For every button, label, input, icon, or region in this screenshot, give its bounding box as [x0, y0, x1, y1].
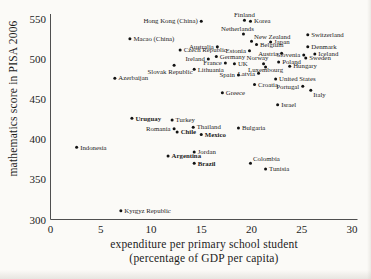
point-label-brazil: Brazil [198, 160, 216, 167]
point-slovenia [302, 53, 305, 56]
x-tick-label-5: 5 [98, 223, 104, 235]
point-tunisia [264, 167, 267, 170]
point-korea [249, 20, 252, 23]
point-czech-republic [179, 49, 182, 52]
point-label-sweden: Sweden [309, 54, 331, 61]
point-label-indonesia: Indonesia [80, 144, 106, 151]
y-tick-label-400: 400 [30, 133, 47, 145]
point-colombia [249, 162, 252, 165]
y-tick-label-500: 500 [30, 53, 47, 65]
point-portugal [301, 85, 304, 88]
x-axis-title-line2: (percentage of GDP per capita) [50, 252, 358, 264]
point-finland [243, 19, 246, 22]
x-tick-label-10: 10 [146, 223, 158, 235]
point-label-germany: Germany [220, 53, 246, 60]
point-label-slovenia: Slovenia [276, 51, 300, 58]
point-germany [215, 55, 218, 58]
point-label-korea: Korea [254, 17, 271, 24]
point-norway [262, 62, 265, 65]
x-tick-label-0: 0 [48, 223, 54, 235]
y-tick-label-300: 300 [30, 214, 47, 226]
point-label-colombia: Colombia [253, 155, 280, 162]
point-label-portugal: Portugal [276, 83, 299, 90]
point-label-denmark: Denmark [311, 43, 337, 50]
point-spain [237, 73, 240, 76]
x-tick-label-25: 25 [296, 223, 308, 235]
point-label-greece: Greece [226, 89, 245, 96]
point-label-latvia: Latvia [238, 70, 255, 77]
x-axis-title-line1: expenditure per primary school student [50, 238, 358, 250]
point-label-croatia: Croatia [258, 81, 278, 88]
point-israel [276, 103, 279, 106]
point-netherlands [242, 33, 245, 36]
point-chile [176, 130, 179, 133]
point-estonia [248, 49, 251, 52]
pisa-scatter-figure: 300350400450500550051015202530FinlandKor… [0, 0, 371, 279]
y-tick-label-350: 350 [30, 173, 47, 185]
point-label-bulgaria: Bulgaria [242, 124, 265, 131]
point-label-tunisia: Tunisia [269, 165, 289, 172]
point-hong-kong-china [200, 20, 203, 23]
point-poland [277, 61, 280, 64]
point-latvia [257, 72, 260, 75]
point-label-switzerland: Switzerland [311, 31, 344, 38]
point-romania [173, 127, 176, 130]
point-turkey [171, 118, 174, 121]
point-label-hungary: Hungary [293, 62, 317, 69]
y-tick-label-550: 550 [30, 13, 47, 25]
point-label-macao-china: Macao (China) [133, 35, 174, 43]
point-label-israel: Israel [281, 101, 296, 108]
point-argentina [167, 155, 170, 158]
point-label-argentina: Argentina [172, 152, 202, 159]
point-uk [233, 62, 236, 65]
page-edge-shadow [367, 0, 371, 279]
point-label-kyrgyz-republic: Kyrgyz Republic [124, 207, 171, 214]
x-tick-label-30: 30 [347, 223, 359, 235]
point-italy [309, 89, 312, 92]
point-kyrgyz-republic [119, 209, 122, 212]
point-label-thailand: Thailand [197, 123, 222, 130]
point-label-united-states: United States [279, 75, 316, 82]
x-tick-label-15: 15 [196, 223, 208, 235]
point-label-finland: Finland [234, 11, 255, 18]
point-slovak-republic [173, 64, 176, 67]
point-label-mexico: Mexico [205, 131, 227, 138]
point-croatia [253, 83, 256, 86]
point-label-turkey: Turkey [176, 116, 196, 123]
y-tick-label-450: 450 [30, 93, 47, 105]
x-tick-label-20: 20 [246, 223, 258, 235]
point-lithuania [193, 68, 196, 71]
point-mexico [200, 133, 203, 136]
point-new-zealand [250, 40, 253, 43]
point-uruguay [130, 117, 133, 120]
point-france [224, 61, 227, 64]
point-label-azerbaijan: Azerbaijan [118, 74, 148, 81]
point-indonesia [75, 146, 78, 149]
point-label-norway: Norway [247, 54, 269, 61]
point-label-romania: Romania [146, 125, 171, 132]
page-edge-shadow [0, 270, 371, 279]
point-greece [221, 91, 224, 94]
point-label-chile: Chile [181, 128, 196, 135]
point-bulgaria [237, 126, 240, 129]
point-label-uruguay: Uruguay [135, 115, 161, 122]
point-label-slovak-republic: Slovak Republic [148, 68, 193, 75]
point-label-netherlands: Netherlands [221, 25, 254, 32]
point-label-hong-kong-china: Hong Kong (China) [143, 17, 197, 25]
point-label-belgium: Belgium [260, 41, 284, 48]
point-label-spain: Spain [219, 71, 235, 78]
point-label-italy: Italy [313, 91, 326, 98]
point-sweden [304, 57, 307, 60]
point-denmark [306, 45, 309, 48]
point-azerbaijan [113, 77, 116, 80]
point-brazil [193, 162, 196, 165]
point-macao-china [128, 37, 131, 40]
point-belgium [255, 43, 258, 46]
y-axis-title: mathematics score in PISA 2006 [7, 0, 22, 209]
point-hungary [288, 65, 291, 68]
point-switzerland [306, 33, 309, 36]
